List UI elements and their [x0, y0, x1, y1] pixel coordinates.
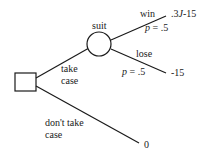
win-label: win [140, 8, 155, 19]
lose-prob-eq: = .5 [127, 66, 145, 77]
chance-node-label: suit [92, 20, 106, 31]
lose-probability: p = .5 [122, 66, 145, 77]
take-case-label-1: take [61, 63, 78, 74]
decision-node [15, 73, 36, 91]
dont-take-case-label-1: don't take [45, 117, 84, 128]
dont-take-case-payoff: 0 [144, 139, 149, 150]
dont-take-case-label-2: case [45, 129, 62, 140]
lose-payoff: -15 [171, 67, 184, 78]
take-case-label-2: case [61, 75, 78, 86]
chance-node [87, 32, 111, 56]
lose-label: lose [136, 48, 152, 59]
win-payoff: .3J-15 [171, 8, 196, 19]
win-payoff-prefix: .3 [171, 8, 179, 19]
win-probability: p = .5 [145, 22, 168, 33]
win-payoff-suffix: -15 [183, 8, 196, 19]
win-prob-eq: = .5 [150, 22, 168, 33]
